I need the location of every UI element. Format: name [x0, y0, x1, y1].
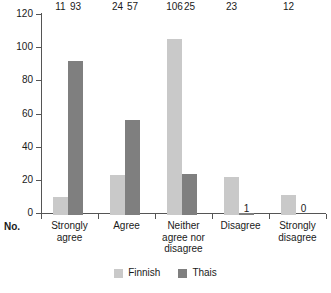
bar-finnish-strongly-agree[interactable]: 11 — [53, 14, 68, 215]
y-tick-label: 60 — [3, 109, 33, 119]
bar-finnish-neither[interactable]: 106 — [167, 14, 182, 215]
category-line: Agree — [98, 220, 155, 232]
x-category-label-strongly-agree: Strongly agree — [41, 220, 98, 243]
legend-swatch-icon — [178, 269, 187, 278]
bar-rect — [167, 39, 182, 215]
category-line: agree — [41, 232, 98, 244]
bar-value-label: 93 — [70, 2, 81, 12]
plot-area: 11 93 24 57 106 — [41, 12, 326, 215]
x-category-label-disagree: Disagree — [212, 220, 269, 232]
bar-value-label: 23 — [226, 2, 237, 12]
bar-value-label: 57 — [127, 2, 138, 12]
y-tick-label: 20 — [3, 175, 33, 185]
bar-value-label: 24 — [112, 2, 123, 12]
bar-rect — [110, 175, 125, 215]
category-line: disagree — [269, 232, 326, 244]
bar-value-label: 11 — [55, 2, 65, 12]
bar-rect — [224, 177, 239, 215]
x-category-label-neither: Neither agree nor disagree — [155, 220, 212, 255]
bar-value-label: 106 — [166, 2, 183, 12]
y-tick-label: 120 — [3, 9, 33, 19]
bar-rect — [68, 61, 83, 215]
legend-item-thais[interactable]: Thais — [178, 268, 216, 278]
bar-rect — [125, 120, 140, 215]
bar-rect — [182, 174, 197, 215]
bar-group-strongly-agree: 11 93 — [53, 14, 83, 215]
y-tick-label: 40 — [3, 142, 33, 152]
y-tick-label: 0 — [3, 208, 33, 218]
bar-group-disagree: 23 1 — [224, 14, 254, 215]
bar-value-label: 12 — [283, 2, 294, 12]
bar-finnish-agree[interactable]: 24 — [110, 14, 125, 215]
x-category-label-strongly-disagree: Strongly disagree — [269, 220, 326, 243]
y-tick-label: 100 — [3, 42, 33, 52]
category-line: Disagree — [212, 220, 269, 232]
category-line: Neither — [155, 220, 212, 232]
category-line: disagree — [155, 243, 212, 255]
bar-group-strongly-disagree: 12 0 — [281, 14, 311, 215]
bar-finnish-strongly-disagree[interactable]: 12 — [281, 14, 296, 215]
legend-label: Thais — [192, 268, 216, 278]
bar-thais-disagree[interactable]: 1 — [239, 14, 254, 215]
bar-rect — [53, 197, 68, 215]
category-line: Strongly — [41, 220, 98, 232]
x-tick-mark — [326, 214, 327, 219]
bar-rect — [281, 195, 296, 215]
bar-thais-strongly-agree[interactable]: 93 — [68, 14, 83, 215]
legend-swatch-icon — [114, 269, 123, 278]
bar-value-label: 25 — [184, 2, 195, 12]
bar-value-label: 0 — [301, 204, 307, 214]
bar-thais-agree[interactable]: 57 — [125, 14, 140, 215]
y-tick-label: 80 — [3, 75, 33, 85]
legend-label: Finnish — [128, 268, 160, 278]
bar-group-neither: 106 25 — [167, 14, 197, 215]
category-line: Strongly — [269, 220, 326, 232]
chart-legend: Finnish Thais — [0, 268, 331, 278]
category-line: agree nor — [155, 232, 212, 244]
x-axis-name: No. — [4, 221, 20, 233]
bar-group-agree: 24 57 — [110, 14, 140, 215]
bar-thais-neither[interactable]: 25 — [182, 14, 197, 215]
bar-chart: 120 100 80 60 40 20 0 11 — [0, 0, 331, 293]
bar-finnish-disagree[interactable]: 23 — [224, 14, 239, 215]
bar-rect — [239, 213, 254, 215]
legend-item-finnish[interactable]: Finnish — [114, 268, 160, 278]
bar-thais-strongly-disagree[interactable]: 0 — [296, 14, 311, 215]
x-category-label-agree: Agree — [98, 220, 155, 232]
